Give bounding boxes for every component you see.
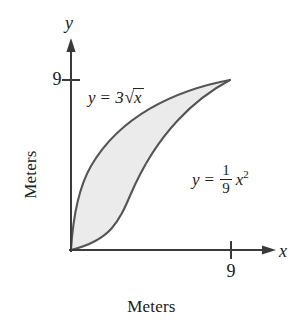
lower-eq-exponent: 2 <box>243 169 249 180</box>
upper-eq-equals-sign: = <box>101 89 111 106</box>
y-axis-units-label: Meters <box>22 125 39 225</box>
one-ninth-fraction: 1 9 <box>220 163 232 196</box>
x-axis-tick-label-9: 9 <box>224 262 238 280</box>
lower-eq-equals-sign: = <box>205 171 215 188</box>
upper-curve-equation-label: y = 3 √ x <box>88 88 144 107</box>
x-axis-name-label: x <box>279 242 287 260</box>
lower-curve-equation-label: y = 1 9 x 2 <box>192 163 249 196</box>
x-axis-arrow-icon <box>262 245 276 254</box>
fraction-denominator: 9 <box>220 179 232 196</box>
y-axis-name-label: y <box>65 14 73 32</box>
upper-eq-lhs: y <box>88 89 96 106</box>
y-axis-arrow-icon <box>66 38 75 52</box>
lower-eq-lhs: y <box>192 171 200 188</box>
radical-sign: √ <box>125 89 134 106</box>
lower-eq-variable: x <box>236 171 244 188</box>
graph-figure <box>0 0 303 325</box>
x-axis-units-label: Meters <box>0 298 303 315</box>
square-root-icon: √ x <box>125 88 144 107</box>
fraction-numerator: 1 <box>220 163 232 179</box>
upper-eq-radicand: x <box>133 88 144 107</box>
upper-eq-coefficient: 3 <box>115 89 124 106</box>
y-axis-tick-label-9: 9 <box>50 70 64 88</box>
